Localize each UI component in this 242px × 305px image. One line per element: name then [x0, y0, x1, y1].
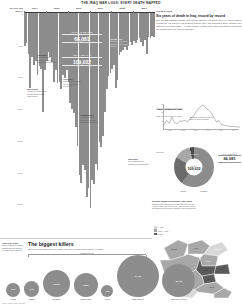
killers-scale-label: Deaths, 2004-09	[79, 252, 94, 254]
y-tick-label: 1,500	[18, 108, 23, 110]
page-title: The Iraq war logs: every death mapped	[81, 1, 160, 5]
donut-side-value: 66,081	[218, 155, 241, 163]
killer-bubble-circle: 3,100Rocket	[24, 281, 40, 297]
annotation-fall-of-baghdad: April 2003 Fall of Baghdad; Saddam Husse…	[37, 54, 58, 63]
article-kicker: THE WAR LOGS	[156, 10, 242, 13]
donut-legend-title: Who died	[156, 151, 172, 153]
callout-civilian-deaths: CIVILIAN DEATHS 66,081	[62, 31, 102, 43]
killer-bubble-circle: 9,800Suicide bomb	[74, 273, 98, 297]
y-tick-label: 500	[19, 45, 23, 47]
infographic-page: The Iraq war logs: every death mapped DE…	[0, 0, 242, 305]
killers-sidebar: HOW THEY DIED Every death in the logs is…	[2, 242, 24, 251]
inset-y-tick: 2k	[161, 111, 163, 113]
x-tick-label: 2004	[32, 7, 37, 10]
killer-bubble[interactable]: 9,800Suicide bomb	[74, 273, 98, 297]
inset-chart-note: Sectarian killings peak in winter 2006-0…	[190, 116, 216, 120]
biggest-killers-section: HOW THEY DIED Every death in the logs is…	[0, 238, 152, 305]
killer-bubble[interactable]: 1,900Sniper	[101, 285, 113, 297]
x-tick-label: 2006	[76, 7, 81, 10]
map-legend-swatch	[154, 226, 157, 229]
killer-bubble-value: 2,700	[11, 289, 15, 290]
killer-bubble-label: Rocket	[29, 298, 35, 300]
bar-series	[24, 13, 155, 235]
killer-bubble-circle: 2,700Mortar	[6, 283, 20, 297]
donut-chart-block: Who died TOTAL 109,032 CIVILIAN CIVILIAN…	[156, 141, 242, 201]
annotation-withdrawal: June 2009 US combat troops withdraw from…	[128, 158, 149, 165]
killer-bubble-label: Mortar	[11, 298, 16, 300]
x-axis: 200420052006200720082009	[24, 6, 155, 13]
map-province-label: Baghdad	[215, 248, 222, 250]
article-headline: Six years of death in Iraq, record by re…	[156, 14, 242, 18]
killer-bubble[interactable]: 2,700Mortar	[6, 283, 20, 297]
donut-segment-civilian: CIVILIAN	[182, 153, 206, 155]
killer-bubble-label: Improvised explosive	[171, 298, 188, 300]
map-province-label: Nineveh	[171, 248, 177, 250]
killer-bubble-label: Sniper	[105, 298, 110, 300]
annotation-surge: January 2007 US announces troop surge of…	[110, 38, 131, 47]
y-axis: DEATHS PER MONTH 05001,0001,5002,0002,50…	[0, 6, 24, 235]
donut-center-value: 109,032	[188, 166, 201, 170]
map-province-label: Basra	[220, 268, 224, 270]
killer-bubble-value: 34,400	[135, 275, 141, 277]
killers-header: The biggest killers Recorded deaths attr…	[28, 241, 148, 250]
killer-bubble[interactable]: 34,400Small arms fire	[117, 255, 159, 297]
killer-bubble[interactable]: 21,700Improvised explosive	[162, 264, 195, 297]
donut-chart: TOTAL 109,032 CIVILIAN	[174, 147, 214, 187]
x-tick-label: 2005	[54, 7, 59, 10]
map-province-label: Kirkuk	[207, 278, 212, 280]
killer-bubble-circle: 1,900Sniper	[101, 285, 113, 297]
donut-center: TOTAL 109,032	[186, 159, 203, 176]
killer-bubble[interactable]: 3,100Rocket	[24, 281, 40, 297]
donut-footer-coalition: Coalition	[200, 190, 207, 192]
killer-bubble-label: Small arms fire	[132, 298, 144, 300]
map-province-label: Babil	[204, 269, 208, 271]
inset-y-tick: 1k	[161, 120, 163, 122]
inset-y-tick: 3k	[161, 103, 163, 105]
bar	[153, 13, 155, 37]
killer-bubble[interactable]: 12,200Car bomb	[43, 270, 70, 297]
chart-plot-area: 200420052006200720082009 CIVILIAN DEATHS…	[24, 6, 155, 235]
killer-bubble-value: 3,100	[30, 289, 34, 290]
callout-total-deaths: TOTAL DEATHS 109,032	[62, 54, 102, 66]
killer-bubble-circle: 34,400Small arms fire	[117, 255, 159, 297]
killer-bubble-label: Suicide bomb	[80, 298, 91, 300]
inset-line-chart: Violent deaths over time Total recorded …	[156, 96, 242, 138]
killer-bubble-circle: 21,700Improvised explosive	[162, 264, 195, 297]
map-province-label: Diyala	[206, 260, 211, 262]
annotation-invasion: March 2003 Invasion of Iraq begins; coal…	[27, 88, 48, 97]
killers-title: The biggest killers	[28, 241, 148, 247]
map-province-label: Najaf	[210, 286, 214, 288]
map-description: Baghdad alone accounts for almost half o…	[152, 203, 198, 209]
killer-bubble-value: 21,700	[176, 280, 182, 282]
y-tick-label: 2,500	[18, 172, 23, 174]
killer-bubble-value: 12,200	[53, 283, 59, 285]
donut-footer-labels: Enemy Coalition	[174, 190, 214, 192]
donut-footer-enemy: Enemy	[181, 190, 187, 192]
killers-sidebar-body: Every death in the logs is tagged with t…	[2, 244, 23, 251]
source-note: Source: Iraq war logs / Wikileaks	[2, 303, 25, 304]
annotation-samarra: February 2006 Al-Askari mosque bombing i…	[80, 114, 101, 123]
killer-bubble-label: Car bomb	[53, 298, 61, 300]
main-chart: DEATHS PER MONTH 05001,0001,5002,0002,50…	[0, 6, 155, 235]
map-legend-swatch	[154, 233, 157, 236]
killers-bubble-row: 2,700Mortar3,100Rocket12,200Car bomb9,80…	[2, 261, 152, 305]
x-tick-label: 2007	[98, 7, 103, 10]
y-tick-label: 2,000	[18, 140, 23, 142]
killer-bubble-value: 1,900	[105, 291, 109, 292]
donut-side-callout: CIVILIAN DEATHS 66,081	[218, 153, 241, 163]
article-standfirst: The 391,832 classified military field re…	[156, 19, 242, 31]
right-column: THE WAR LOGS Six years of death in Iraq,…	[156, 10, 242, 200]
map-province-label: Anbar	[194, 247, 199, 249]
y-tick-label: 1,000	[18, 76, 23, 78]
x-tick-label: 2008	[120, 7, 125, 10]
killer-bubble-value: 9,800	[83, 284, 88, 286]
map-legend-swatch	[154, 229, 157, 232]
killers-subtitle: Recorded deaths attributed to each cause…	[28, 248, 148, 250]
y-tick-label: 3,000	[18, 203, 23, 205]
killer-bubble-circle: 12,200Car bomb	[43, 270, 70, 297]
annotation-fallujah: April 2004 First battle of Fallujah; Abu…	[63, 78, 84, 87]
x-tick-label: 2009	[141, 7, 146, 10]
y-tick-label: 0	[22, 13, 23, 15]
y-axis-title: DEATHS PER MONTH	[2, 7, 23, 12]
